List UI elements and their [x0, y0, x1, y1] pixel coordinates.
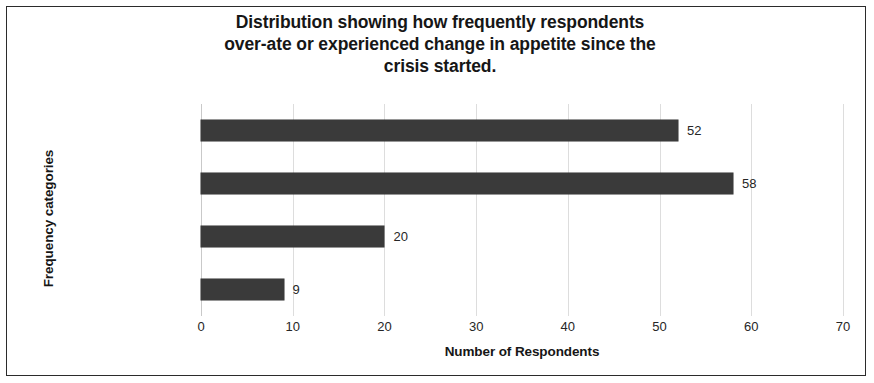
- bar-chart-figure: Distribution showing how frequently resp…: [0, 0, 874, 383]
- bar-row: Not at all58: [201, 157, 843, 210]
- bar-value-label: 58: [733, 173, 756, 194]
- bar-value-label: 52: [678, 120, 701, 141]
- plot-area: Sometimes52Not at all58Most of the times…: [201, 104, 843, 316]
- y-axis-title: Frequency categories: [41, 104, 56, 334]
- x-tick-40: 40: [548, 319, 588, 334]
- gridline-70: [843, 104, 844, 316]
- x-tick-0: 0: [181, 319, 221, 334]
- bar-sometimes[interactable]: [201, 120, 678, 141]
- chart-title-line-2: over-ate or experienced change in appeti…: [70, 33, 810, 55]
- bar-row: Everyday9: [201, 263, 843, 316]
- bar-everyday[interactable]: [201, 279, 284, 300]
- x-tick-60: 60: [731, 319, 771, 334]
- x-axis-title: Number of Respondents: [201, 344, 843, 359]
- x-tick-70: 70: [823, 319, 863, 334]
- bar-row: Sometimes52: [201, 104, 843, 157]
- bar-row: Most of the times20: [201, 210, 843, 263]
- chart-title-line-3: crisis started.: [70, 55, 810, 77]
- x-tick-30: 30: [456, 319, 496, 334]
- x-tick-20: 20: [364, 319, 404, 334]
- bar-not-at-all[interactable]: [201, 173, 733, 194]
- chart-title: Distribution showing how frequently resp…: [70, 11, 810, 77]
- x-tick-50: 50: [640, 319, 680, 334]
- bar-value-label: 20: [384, 226, 407, 247]
- bar-most-of-the-times[interactable]: [201, 226, 384, 247]
- chart-title-line-1: Distribution showing how frequently resp…: [70, 11, 810, 33]
- bar-value-label: 9: [284, 279, 300, 300]
- x-axis-tick-labels: 010203040506070: [201, 319, 843, 339]
- x-tick-10: 10: [273, 319, 313, 334]
